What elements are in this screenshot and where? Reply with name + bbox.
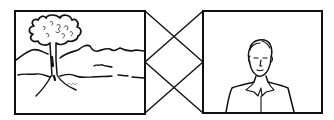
left-frame [15,11,145,114]
connector-lines [145,11,203,113]
right-frame [203,11,322,113]
diagram-canvas [0,0,334,120]
right-frame-border [203,11,322,113]
diagram-svg [0,0,334,120]
